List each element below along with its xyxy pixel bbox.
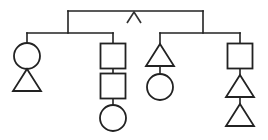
branch-2-circle-node[interactable] — [100, 105, 126, 131]
branch-4-triangle-node-upper[interactable] — [226, 75, 254, 97]
branch-3-triangle-node[interactable] — [146, 44, 174, 66]
branch-1-circle-node[interactable] — [14, 43, 40, 69]
branch-4-square-node[interactable] — [228, 44, 253, 69]
branch-3-group — [146, 44, 174, 100]
branch-1-group — [13, 43, 41, 91]
pedigree-canvas — [0, 0, 268, 140]
branch-4-triangle-node-lower[interactable] — [226, 104, 254, 126]
branch-2-group — [100, 44, 126, 132]
pedigree-diagram — [0, 0, 268, 140]
branch-2-square-node-upper[interactable] — [101, 44, 126, 69]
connector-group — [27, 11, 240, 44]
branch-3-circle-node[interactable] — [147, 74, 173, 100]
branch-2-square-node-lower[interactable] — [101, 74, 126, 99]
caret-mark-group — [127, 12, 141, 23]
branch-1-triangle-node[interactable] — [13, 69, 41, 91]
branch-4-group — [226, 44, 254, 127]
caret-mark-icon — [127, 12, 141, 23]
